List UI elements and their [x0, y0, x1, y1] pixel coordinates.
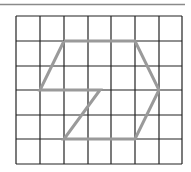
- grid-figure: [0, 0, 191, 172]
